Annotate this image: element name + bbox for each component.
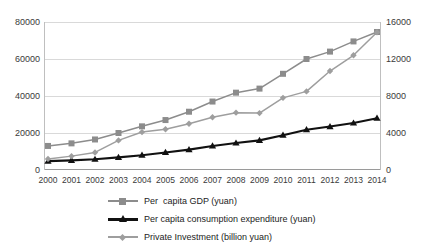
chart-container: 80000 60000 40000 20000 0 16000 12000 80… xyxy=(0,0,442,252)
right-axis-tick-0: 0 xyxy=(386,166,391,175)
data-point-0-2010 xyxy=(280,71,286,77)
left-axis-tick-labels: 80000 60000 40000 20000 0 xyxy=(0,22,40,170)
legend-marker-triangle-icon xyxy=(108,213,138,225)
data-point-2-2002 xyxy=(92,149,98,155)
x-axis-tick-2005: 2005 xyxy=(156,175,175,185)
x-axis-tick-2009: 2009 xyxy=(250,175,269,185)
x-axis-tick-2014: 2014 xyxy=(368,175,387,185)
data-point-2-2007 xyxy=(209,114,215,120)
left-axis-tick-60000: 60000 xyxy=(15,55,40,64)
data-point-2-2004 xyxy=(139,129,145,135)
x-axis-tick-2012: 2012 xyxy=(321,175,340,185)
legend-label-investment: Private Investment (billion yuan) xyxy=(144,232,272,242)
data-point-2-2001 xyxy=(68,153,74,159)
x-axis-tick-labels: 2000200120022003200420052006200720082009… xyxy=(44,175,381,189)
legend-item-consumption: Per capita consumption expenditure (yuan… xyxy=(108,210,408,228)
x-axis-tick-2008: 2008 xyxy=(227,175,246,185)
left-axis-tick-40000: 40000 xyxy=(15,92,40,101)
x-axis-tick-2003: 2003 xyxy=(109,175,128,185)
x-axis-tick-2000: 2000 xyxy=(39,175,58,185)
data-point-0-2006 xyxy=(186,109,192,115)
data-point-2-2008 xyxy=(233,109,239,115)
right-axis-tick-labels: 16000 12000 8000 4000 0 xyxy=(386,22,434,170)
legend-label-consumption: Per capita consumption expenditure (yuan… xyxy=(144,214,316,224)
left-axis-tick-80000: 80000 xyxy=(15,18,40,27)
chart-legend: Per capita GDP (yuan) Per capita consump… xyxy=(108,192,408,246)
right-axis-tick-8000: 8000 xyxy=(386,92,406,101)
legend-item-gdp: Per capita GDP (yuan) xyxy=(108,192,408,210)
left-axis-tick-0: 0 xyxy=(35,166,40,175)
legend-item-investment: Private Investment (billion yuan) xyxy=(108,228,408,246)
x-axis-tick-2010: 2010 xyxy=(274,175,293,185)
data-point-0-2013 xyxy=(351,38,357,44)
data-point-0-2003 xyxy=(116,130,122,136)
data-point-0-2002 xyxy=(92,136,98,142)
x-axis-tick-2004: 2004 xyxy=(133,175,152,185)
data-point-2-2005 xyxy=(162,126,168,132)
data-point-2-2003 xyxy=(115,137,121,143)
right-axis-tick-4000: 4000 xyxy=(386,129,406,138)
x-axis-tick-2006: 2006 xyxy=(180,175,199,185)
x-axis-tick-2013: 2013 xyxy=(344,175,363,185)
x-axis-tick-2007: 2007 xyxy=(203,175,222,185)
data-point-0-2007 xyxy=(210,99,216,105)
data-point-0-2011 xyxy=(304,56,310,62)
x-axis-tick-2002: 2002 xyxy=(86,175,105,185)
data-point-0-2009 xyxy=(257,86,263,92)
left-axis-tick-20000: 20000 xyxy=(15,129,40,138)
data-point-0-2008 xyxy=(233,90,239,96)
series-plot xyxy=(44,22,381,170)
x-axis-tick-2011: 2011 xyxy=(297,175,315,185)
data-point-0-2000 xyxy=(45,143,51,149)
x-axis-tick-2001: 2001 xyxy=(62,175,81,185)
data-point-0-2012 xyxy=(327,49,333,55)
right-axis-tick-16000: 16000 xyxy=(386,18,411,27)
data-point-0-2005 xyxy=(163,117,169,123)
plot-area xyxy=(44,22,381,170)
legend-label-gdp: Per capita GDP (yuan) xyxy=(144,196,237,206)
legend-marker-diamond-icon xyxy=(108,231,138,243)
data-point-2-2006 xyxy=(186,121,192,127)
data-point-0-2004 xyxy=(139,123,145,129)
legend-marker-square-icon xyxy=(108,195,138,207)
data-point-0-2001 xyxy=(69,140,75,146)
right-axis-tick-12000: 12000 xyxy=(386,55,411,64)
